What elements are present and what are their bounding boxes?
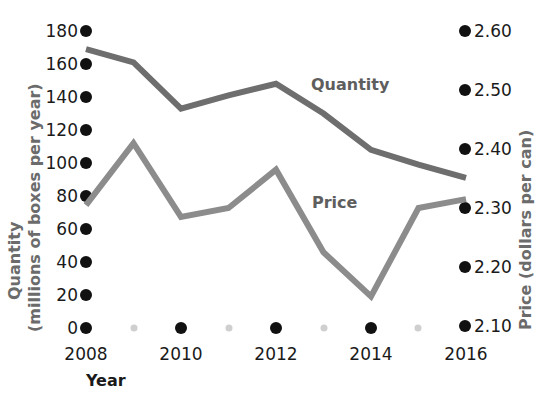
left-tick-label-80: 80 — [56, 186, 78, 206]
chart-container: 180 160 140 120 100 80 60 40 20 0 Quanti… — [0, 0, 539, 399]
right-tick-label-230: 2.30 — [474, 198, 512, 218]
dual-axis-line-chart: 180 160 140 120 100 80 60 40 20 0 Quanti… — [0, 0, 539, 399]
x-minor-tick-dot-2011 — [226, 325, 233, 332]
price-series-label: Price — [312, 193, 358, 212]
x-tick-dot-2014 — [365, 322, 377, 334]
right-axis-title: Price (dollars per can) — [516, 130, 535, 330]
left-tick-label-160: 160 — [46, 54, 78, 74]
right-tick-dot-230 — [459, 202, 471, 214]
x-tick-label-2008: 2008 — [64, 344, 107, 364]
left-tick-label-60: 60 — [56, 219, 78, 239]
right-tick-dot-210 — [459, 320, 471, 332]
right-tick-dot-250 — [459, 84, 471, 96]
left-tick-dot-160 — [80, 58, 92, 70]
left-tick-dot-180 — [80, 25, 92, 37]
right-tick-dot-240 — [459, 143, 471, 155]
right-tick-dot-220 — [459, 261, 471, 273]
left-axis-title-line2: (millions of boxes per year) — [25, 83, 44, 332]
right-tick-label-220: 2.20 — [474, 257, 512, 277]
right-tick-label-250: 2.50 — [474, 80, 512, 100]
left-tick-label-100: 100 — [46, 153, 78, 173]
left-tick-label-120: 120 — [46, 120, 78, 140]
left-tick-label-0: 0 — [67, 318, 78, 338]
left-tick-label-40: 40 — [56, 252, 78, 272]
x-tick-dot-2012 — [270, 322, 282, 334]
right-tick-label-210: 2.10 — [474, 316, 512, 336]
x-axis-title: Year — [85, 371, 126, 390]
left-tick-dot-120 — [80, 124, 92, 136]
right-tick-label-260: 2.60 — [474, 21, 512, 41]
x-minor-tick-dot-2009 — [131, 325, 138, 332]
x-minor-tick-dot-2015 — [415, 325, 422, 332]
x-tick-label-2010: 2010 — [159, 344, 202, 364]
left-axis-title-line1: Quantity — [5, 221, 24, 300]
x-tick-dot-2010 — [175, 322, 187, 334]
left-tick-label-20: 20 — [56, 285, 78, 305]
left-tick-dot-40 — [80, 256, 92, 268]
left-tick-dot-60 — [80, 223, 92, 235]
left-tick-dot-100 — [80, 157, 92, 169]
left-tick-label-180: 180 — [46, 21, 78, 41]
x-minor-tick-dot-2013 — [321, 325, 328, 332]
x-tick-label-2014: 2014 — [349, 344, 392, 364]
left-tick-dot-20 — [80, 289, 92, 301]
right-tick-dot-260 — [459, 25, 471, 37]
left-tick-label-140: 140 — [46, 87, 78, 107]
right-tick-label-240: 2.40 — [474, 139, 512, 159]
quantity-series-label: Quantity — [311, 75, 390, 94]
x-tick-label-2016: 2016 — [444, 344, 487, 364]
left-tick-dot-0 — [80, 322, 92, 334]
left-tick-dot-140 — [80, 91, 92, 103]
x-tick-label-2012: 2012 — [254, 344, 297, 364]
